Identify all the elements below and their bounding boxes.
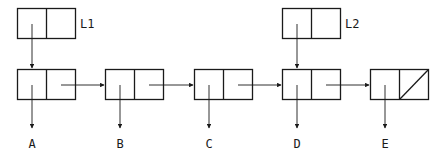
node-value-label: A bbox=[28, 137, 36, 151]
head-pointer-l2: L2 bbox=[283, 9, 360, 69]
head-label-l2: L2 bbox=[345, 17, 359, 31]
list-node-c: C bbox=[195, 70, 282, 152]
list-node-e: E bbox=[371, 70, 429, 152]
head-pointer-l1: L1 bbox=[18, 9, 95, 69]
list-node-d: D bbox=[283, 70, 370, 152]
list-node-b: B bbox=[106, 70, 194, 152]
node-value-label: E bbox=[381, 137, 388, 151]
head-label-l1: L1 bbox=[80, 17, 94, 31]
node-value-label: C bbox=[205, 137, 212, 151]
node-value-label: B bbox=[116, 137, 123, 151]
list-node-a: A bbox=[18, 70, 105, 152]
linked-list-diagram: L1 L2 A B C D bbox=[0, 0, 445, 159]
node-value-label: D bbox=[293, 137, 300, 151]
